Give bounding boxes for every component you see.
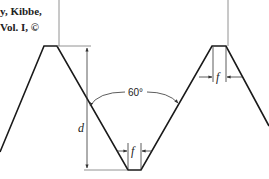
crest-flat-label: f — [216, 70, 221, 84]
angle-label: 60° — [128, 87, 143, 98]
thread-profile — [0, 46, 269, 170]
extension-lines — [57, 0, 228, 170]
root-flat-dimension — [117, 143, 152, 170]
depth-label: d — [78, 121, 85, 135]
thread-profile-diagram: d f f 60° — [0, 0, 269, 179]
root-flat-label: f — [131, 144, 136, 158]
